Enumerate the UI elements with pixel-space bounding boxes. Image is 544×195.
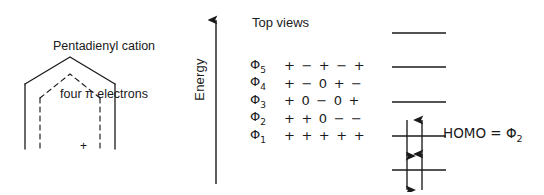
energy-level-diagram: HOMO = Φ2	[380, 14, 544, 192]
orbital-signs: + + 0 − −	[284, 111, 363, 126]
structure-inner-dashed-path	[40, 74, 100, 149]
orbital-label: Φ5	[250, 57, 284, 75]
pentadienyl-structure: +	[18, 52, 148, 162]
orbital-row: Φ5 + − + − +	[250, 57, 380, 75]
orbital-row: Φ4 + − 0 + −	[250, 75, 380, 93]
orbital-signs: + + + + +	[284, 128, 366, 143]
orbital-list: Φ5 + − + − + Φ4 + − 0 + − Φ3 + 0 − 0 + Φ…	[250, 57, 380, 145]
level-lines	[392, 33, 446, 170]
energy-axis: Energy	[196, 14, 236, 186]
electron-arrows	[407, 120, 422, 190]
orbital-label: Φ3	[250, 92, 284, 110]
positive-charge-symbol: +	[80, 140, 87, 152]
diagram-root: Pentadienyl cation four π electrons +	[0, 0, 544, 195]
homo-annotation: HOMO = Φ2	[443, 125, 523, 144]
orbital-label: Φ4	[250, 74, 284, 92]
orbital-row: Φ1 + + + + +	[250, 127, 380, 145]
orbital-row: Φ2 + + 0 − −	[250, 110, 380, 128]
structure-outer-path	[25, 57, 115, 149]
orbital-signs: + 0 − 0 +	[284, 93, 361, 108]
energy-axis-label: Energy	[192, 58, 207, 100]
top-views-heading: Top views	[252, 15, 309, 30]
orbital-label: Φ2	[250, 109, 284, 127]
orbital-signs: + − + − +	[284, 58, 366, 73]
orbital-label: Φ1	[250, 127, 284, 145]
orbital-row: Φ3 + 0 − 0 +	[250, 92, 380, 110]
orbital-signs: + − 0 + −	[284, 76, 363, 91]
